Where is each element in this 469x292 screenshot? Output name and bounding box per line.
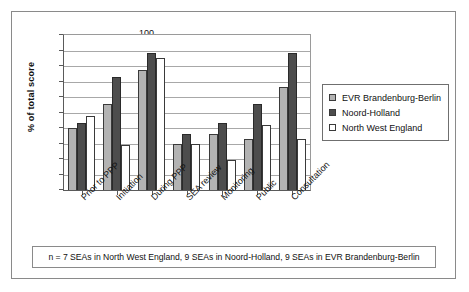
bar [156, 58, 165, 190]
bar [147, 53, 156, 190]
bar [288, 53, 297, 190]
chart-area: % of total score 0102030405060708090100 … [12, 12, 457, 240]
bar [218, 123, 227, 190]
x-axis-tick-labels: Prior to PPPInitiationDuring PPPSEA revi… [64, 194, 310, 240]
legend-swatch-icon [329, 94, 336, 101]
bar-group [64, 35, 99, 190]
legend-item: North West England [329, 120, 441, 135]
legend-item: Noord-Holland [329, 105, 441, 120]
bar [138, 70, 147, 190]
legend-swatch-icon [329, 124, 336, 131]
legend-item: EVR Brandenburg-Berlin [329, 90, 441, 105]
x-axis-label-cell: Public [240, 194, 275, 240]
bar [68, 128, 77, 190]
legend-swatch-icon [329, 109, 336, 116]
figure-frame: % of total score 0102030405060708090100 … [11, 11, 456, 279]
bar-group [240, 35, 275, 190]
bar [182, 134, 191, 190]
bar-group [275, 35, 310, 190]
bar [253, 104, 262, 190]
x-axis-label-cell: Monitoring [205, 194, 240, 240]
legend-item-label: North West England [342, 123, 422, 133]
bar [279, 87, 288, 190]
bar-group [205, 35, 240, 190]
bar-group [134, 35, 169, 190]
legend-item-label: EVR Brandenburg-Berlin [342, 93, 441, 103]
chart-legend: EVR Brandenburg-BerlinNoord-HollandNorth… [322, 84, 449, 141]
footnote-box: n = 7 SEAs in North West England, 9 SEAs… [32, 246, 436, 268]
y-axis-title: % of total score [26, 42, 36, 152]
legend-item-label: Noord-Holland [342, 108, 400, 118]
x-axis-label-cell: SEA review [169, 194, 204, 240]
footnote-text: n = 7 SEAs in North West England, 9 SEAs… [48, 252, 419, 262]
x-axis-label-cell: Prior to PPP [64, 194, 99, 240]
x-axis-label-cell: Initiation [99, 194, 134, 240]
x-axis-label-cell: During PPP [134, 194, 169, 240]
bar [77, 123, 86, 190]
x-axis-label-cell: Consultation [275, 194, 310, 240]
